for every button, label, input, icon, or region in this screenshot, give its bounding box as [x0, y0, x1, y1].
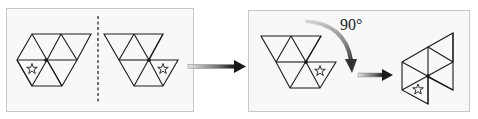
transition-arrow: [188, 60, 246, 73]
reflection-panel: [7, 9, 194, 112]
rotation-panel: 90°: [249, 11, 470, 112]
rotation-label: 90°: [340, 16, 362, 33]
diagram: 90°: [0, 0, 478, 119]
